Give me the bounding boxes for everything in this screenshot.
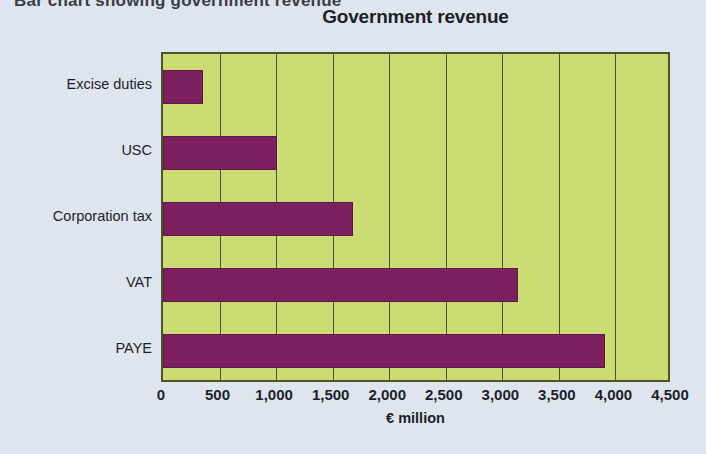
x-tick-3500: 3,500 [538,386,576,403]
bar-vat [163,268,518,302]
bar-excise-duties [163,70,203,104]
category-label-paye: PAYE [9,340,161,356]
category-label-excise-duties: Excise duties [9,76,161,92]
x-tick-2000: 2,000 [368,386,406,403]
x-tick-1000: 1,000 [255,386,293,403]
category-axis-labels: Excise dutiesUSCCorporation taxVATPAYE [0,52,161,382]
bar-corporation-tax [163,202,353,236]
category-label-usc: USC [9,142,161,158]
category-label-vat: VAT [9,274,161,290]
category-label-corporation-tax: Corporation tax [9,208,161,224]
bar-usc [163,136,277,170]
x-tick-3000: 3,000 [482,386,520,403]
chart-plot-area [161,52,670,382]
bar-paye [163,334,605,368]
x-tick-0: 0 [157,386,165,403]
x-tick-500: 500 [205,386,230,403]
x-tick-1500: 1,500 [312,386,350,403]
x-tick-4000: 4,000 [595,386,633,403]
x-tick-2500: 2,500 [425,386,463,403]
bar-row [163,268,672,302]
x-tick-4500: 4,500 [651,386,689,403]
bar-row [163,136,672,170]
bar-row [163,334,672,368]
x-axis-label: € million [161,410,670,426]
bar-row [163,70,672,104]
bar-row [163,202,672,236]
chart-title: Government revenue [161,6,670,28]
x-axis-tick-labels: 05001,0001,5002,0002,5003,0003,5004,0004… [0,386,706,410]
